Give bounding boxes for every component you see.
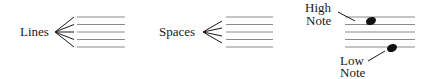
lines-staff xyxy=(77,17,125,47)
music-staff-diagram xyxy=(0,0,435,79)
lines-arrows xyxy=(55,17,74,47)
spaces-staff xyxy=(226,17,273,47)
low-note-head xyxy=(386,42,399,53)
spaces-arrows xyxy=(203,21,222,43)
notes-staff xyxy=(345,17,415,47)
low-note-pointer xyxy=(368,51,385,61)
